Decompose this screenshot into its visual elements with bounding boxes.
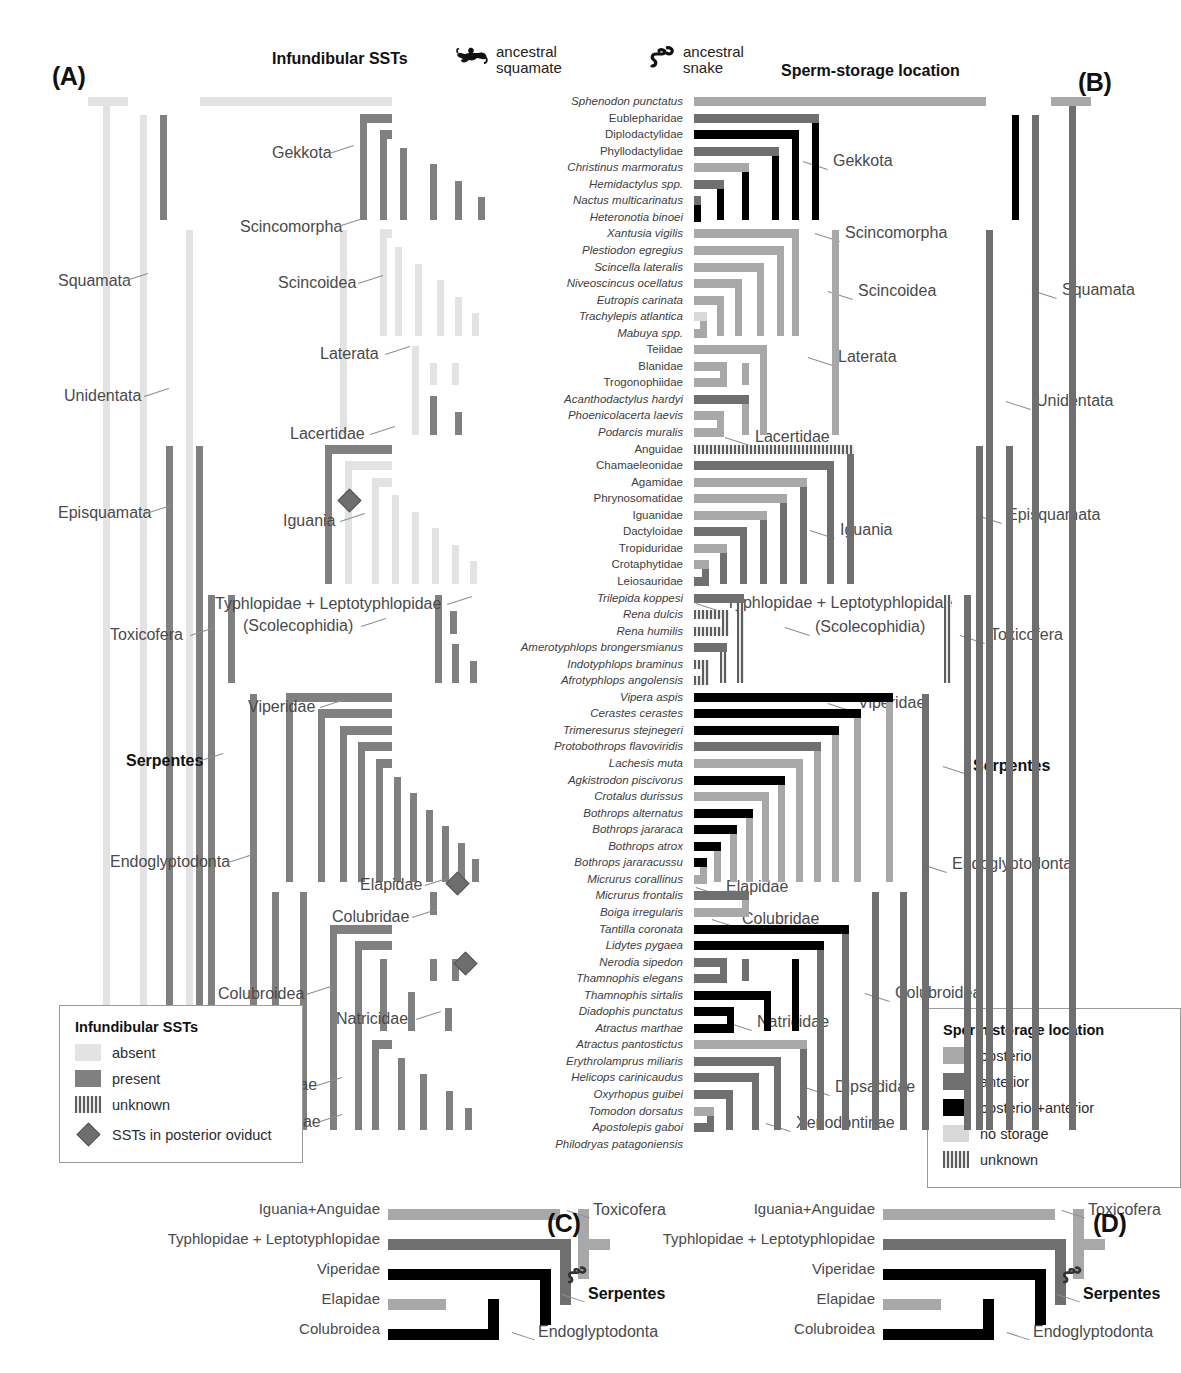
- tip-branch: [694, 527, 747, 536]
- legend-row: absent: [75, 1044, 287, 1061]
- clade-vertical: [854, 710, 861, 882]
- clade-vertical: [1069, 98, 1076, 1130]
- diamond-icon: [337, 488, 361, 512]
- clade-vertical: [814, 743, 821, 881]
- tip-branch: [694, 908, 749, 917]
- tip-branch: [694, 461, 834, 470]
- clade-vertical: [752, 1074, 759, 1130]
- panel-letter-d: (D): [1093, 1209, 1126, 1238]
- tip-branch: [694, 1123, 714, 1132]
- clade-label: Laterata: [838, 348, 897, 366]
- tip-branch: [694, 792, 769, 801]
- clade-vertical: [976, 446, 983, 1131]
- mini-root-branch: [1073, 1239, 1105, 1250]
- mini-tree-c: Iguania+AnguidaeTyphlopidae + Leptotyphl…: [130, 1195, 600, 1340]
- legend-label: unknown: [112, 1097, 170, 1113]
- mini-tip-branch: [388, 1299, 446, 1310]
- legend-left-marker-label: SSTs in posterior oviduct: [112, 1127, 272, 1143]
- tip-branch: [694, 1007, 734, 1016]
- clade-vertical: [964, 595, 971, 1131]
- legend-left-title: Infundibular SSTs: [75, 1019, 287, 1035]
- tip-branch: [694, 709, 861, 718]
- mini-tip-branch: [883, 1239, 1055, 1250]
- tip-branch: [694, 676, 709, 685]
- tip-branch: [694, 1057, 781, 1066]
- legend-swatch-absent: [75, 1044, 101, 1061]
- root-branch: [1051, 97, 1091, 106]
- clade-leader-line: [1006, 401, 1031, 410]
- clade-vertical: [742, 363, 749, 386]
- clade-vertical: [735, 280, 742, 336]
- tip-branch: [694, 263, 764, 272]
- legend-label: absent: [112, 1045, 156, 1061]
- clade-vertical: [762, 793, 769, 882]
- clade-vertical: [730, 826, 737, 882]
- clade-vertical: [774, 1058, 781, 1130]
- diamond-icon: [445, 871, 469, 895]
- legend-left-marker-row: SSTs in posterior oviduct: [75, 1126, 287, 1143]
- tip-branch: [694, 991, 771, 1000]
- clade-vertical: [777, 247, 784, 336]
- tip-branch: [694, 213, 701, 222]
- tip-branch: [694, 97, 986, 106]
- clade-vertical: [986, 230, 993, 1130]
- tip-branch: [694, 378, 727, 387]
- clade-vertical: [944, 595, 951, 684]
- clade-label: Gekkota: [833, 152, 893, 170]
- clade-vertical: [1032, 115, 1039, 1131]
- clade-label: Episquamata: [1007, 506, 1100, 524]
- legend-row: present: [75, 1070, 287, 1087]
- tip-branch: [694, 478, 807, 487]
- tip-branch: [694, 925, 849, 934]
- clade-vertical: [800, 479, 807, 584]
- clade-vertical: [796, 760, 803, 882]
- legend-swatch-present: [75, 1070, 101, 1087]
- tip-branch: [694, 875, 707, 884]
- clade-vertical: [847, 446, 854, 584]
- mini-leader-line: [512, 1332, 535, 1340]
- clade-leader-line: [785, 627, 810, 636]
- mini-tip-branch: [883, 1299, 941, 1310]
- tip-branch: [694, 776, 785, 785]
- clade-label: (Scolecophidia): [815, 618, 925, 636]
- clade-vertical: [737, 595, 744, 684]
- clade-vertical: [827, 462, 834, 584]
- tip-branch: [694, 445, 854, 454]
- clade-vertical: [742, 164, 749, 220]
- tip-branch: [694, 1024, 734, 1033]
- clade-label: Scincomorpha: [845, 224, 947, 242]
- legend-swatch-unknown: [943, 1151, 969, 1168]
- legend-swatch-unknown: [75, 1096, 101, 1113]
- tip-branch: [694, 891, 749, 900]
- clade-vertical: [746, 810, 753, 882]
- tip-branch: [694, 345, 767, 354]
- clade-vertical: [778, 777, 785, 882]
- clade-vertical: [760, 346, 767, 435]
- mini-node-label: Serpentes: [1083, 1285, 1160, 1303]
- mini-tip-branch: [883, 1329, 983, 1340]
- panel-letter-c: (C): [547, 1209, 580, 1238]
- tip-branch: [694, 296, 724, 305]
- tip-branch: [694, 693, 893, 702]
- mini-root-branch: [578, 1239, 610, 1250]
- tip-branch: [694, 627, 729, 636]
- clade-vertical: [792, 230, 799, 335]
- mini-tip-branch: [388, 1239, 560, 1250]
- mini-clade-vertical: [983, 1299, 994, 1340]
- clade-label: Toxicofera: [990, 626, 1063, 644]
- mini-tip-branch: [388, 1269, 540, 1280]
- tip-branch: [694, 1107, 714, 1116]
- clade-vertical: [872, 892, 879, 1130]
- tip-branch: [694, 1073, 759, 1082]
- tip-branch: [694, 544, 727, 553]
- sst-posterior-oviduct-marker: [449, 875, 466, 892]
- tip-branch: [694, 246, 784, 255]
- tip-branch: [694, 759, 803, 768]
- clade-label: Typhlopidae + Leptotyphlopidae: [726, 594, 952, 612]
- clade-vertical: [832, 727, 839, 882]
- mini-tip-label: Typhlopidae + Leptotyphlopidae: [625, 1230, 875, 1247]
- tip-branch: [694, 958, 727, 967]
- clade-vertical: [832, 230, 839, 435]
- mini-tip-label: Iguania+Anguidae: [130, 1200, 380, 1217]
- tip-branch: [694, 196, 701, 205]
